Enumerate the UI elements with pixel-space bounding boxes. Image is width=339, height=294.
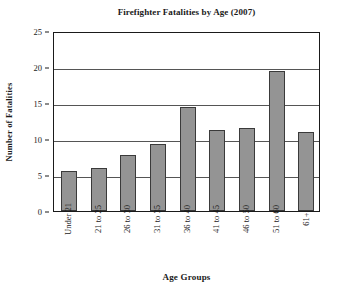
- y-tick-label: 20: [34, 63, 43, 73]
- y-tick-label: 25: [34, 27, 43, 37]
- bar-31-to-35: [150, 144, 166, 211]
- y-tick-label: 15: [34, 99, 43, 109]
- bar-51-to-60: [269, 71, 285, 211]
- x-axis-title: Age Groups: [53, 272, 320, 282]
- y-tick-label: 10: [34, 135, 43, 145]
- x-tick-label: 61+: [278, 214, 332, 268]
- plot-area: [53, 32, 320, 212]
- bar-46-to-50: [239, 128, 255, 211]
- bar-41-to-45: [209, 130, 225, 211]
- bar-61plus: [298, 132, 314, 211]
- y-tick-mark: [45, 68, 49, 69]
- gridline: [54, 69, 319, 70]
- x-axis-tick-labels: Under 2121 to 2526 to 3031 to 3536 to 40…: [53, 214, 320, 268]
- y-tick-label: 5: [38, 171, 42, 181]
- bar-36-to-40: [180, 107, 196, 211]
- y-axis-tick-labels: 0510152025: [0, 32, 49, 212]
- bar-26-to-30: [120, 155, 136, 211]
- y-tick-mark: [45, 140, 49, 141]
- y-tick-mark: [45, 176, 49, 177]
- chart-figure: Firefighter Fatalities by Age (2007) Num…: [0, 0, 339, 294]
- y-tick-mark: [45, 32, 49, 33]
- y-tick-mark: [45, 212, 49, 213]
- x-tick-label-text: 61+: [300, 212, 310, 225]
- chart-title: Firefighter Fatalities by Age (2007): [53, 7, 320, 18]
- y-tick-mark: [45, 104, 49, 105]
